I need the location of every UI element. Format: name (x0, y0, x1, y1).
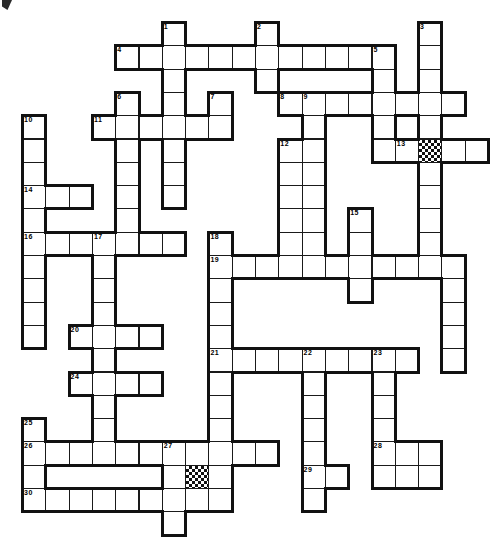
crossword-cell[interactable] (418, 255, 442, 279)
crossword-cell[interactable] (348, 255, 372, 279)
crossword-cell[interactable] (208, 488, 232, 512)
crossword-cell[interactable] (69, 372, 93, 396)
crossword-cell[interactable] (162, 441, 186, 465)
crossword-cell[interactable] (372, 115, 396, 139)
crossword-cell[interactable] (418, 162, 442, 186)
crossword-cell[interactable] (232, 255, 256, 279)
crossword-cell[interactable] (372, 441, 396, 465)
shaded-cell[interactable] (418, 139, 442, 163)
crossword-cell[interactable] (372, 372, 396, 396)
crossword-cell[interactable] (255, 22, 279, 46)
crossword-cell[interactable] (185, 45, 209, 69)
crossword-cell[interactable] (208, 92, 232, 116)
crossword-cell[interactable] (139, 488, 163, 512)
crossword-cell[interactable] (441, 92, 465, 116)
crossword-cell[interactable] (441, 325, 465, 349)
crossword-cell[interactable] (302, 418, 326, 442)
crossword-cell[interactable] (418, 69, 442, 93)
crossword-cell[interactable] (115, 92, 139, 116)
crossword-cell[interactable] (92, 441, 116, 465)
crossword-cell[interactable] (22, 302, 46, 326)
crossword-cell[interactable] (302, 185, 326, 209)
crossword-cell[interactable] (115, 45, 139, 69)
crossword-cell[interactable] (325, 465, 349, 489)
crossword-cell[interactable] (115, 162, 139, 186)
crossword-cell[interactable] (22, 232, 46, 256)
crossword-cell[interactable] (395, 139, 419, 163)
crossword-cell[interactable] (302, 348, 326, 372)
crossword-cell[interactable] (302, 372, 326, 396)
crossword-cell[interactable] (92, 302, 116, 326)
crossword-cell[interactable] (162, 92, 186, 116)
crossword-cell[interactable] (418, 185, 442, 209)
crossword-cell[interactable] (139, 372, 163, 396)
crossword-cell[interactable] (372, 255, 396, 279)
crossword-cell[interactable] (208, 45, 232, 69)
crossword-cell[interactable] (208, 372, 232, 396)
crossword-cell[interactable] (418, 441, 442, 465)
crossword-cell[interactable] (441, 139, 465, 163)
crossword-cell[interactable] (185, 115, 209, 139)
crossword-cell[interactable] (69, 232, 93, 256)
crossword-cell[interactable] (372, 45, 396, 69)
crossword-cell[interactable] (22, 441, 46, 465)
crossword-cell[interactable] (22, 418, 46, 442)
crossword-cell[interactable] (92, 372, 116, 396)
crossword-cell[interactable] (325, 255, 349, 279)
crossword-cell[interactable] (115, 488, 139, 512)
crossword-cell[interactable] (302, 139, 326, 163)
crossword-cell[interactable] (255, 348, 279, 372)
crossword-cell[interactable] (139, 45, 163, 69)
crossword-cell[interactable] (115, 325, 139, 349)
crossword-cell[interactable] (325, 45, 349, 69)
crossword-cell[interactable] (92, 278, 116, 302)
crossword-cell[interactable] (348, 45, 372, 69)
crossword-cell[interactable] (162, 115, 186, 139)
crossword-cell[interactable] (302, 465, 326, 489)
crossword-cell[interactable] (69, 325, 93, 349)
crossword-cell[interactable] (302, 488, 326, 512)
crossword-cell[interactable] (278, 232, 302, 256)
crossword-cell[interactable] (255, 45, 279, 69)
crossword-cell[interactable] (278, 45, 302, 69)
crossword-cell[interactable] (208, 348, 232, 372)
crossword-cell[interactable] (162, 488, 186, 512)
crossword-cell[interactable] (302, 92, 326, 116)
crossword-cell[interactable] (69, 185, 93, 209)
crossword-cell[interactable] (418, 115, 442, 139)
crossword-cell[interactable] (22, 255, 46, 279)
crossword-cell[interactable] (348, 348, 372, 372)
crossword-cell[interactable] (208, 278, 232, 302)
crossword-cell[interactable] (92, 115, 116, 139)
crossword-cell[interactable] (418, 465, 442, 489)
crossword-cell[interactable] (115, 115, 139, 139)
crossword-cell[interactable] (302, 162, 326, 186)
crossword-cell[interactable] (255, 69, 279, 93)
crossword-cell[interactable] (278, 139, 302, 163)
crossword-cell[interactable] (208, 465, 232, 489)
crossword-cell[interactable] (302, 115, 326, 139)
crossword-cell[interactable] (22, 162, 46, 186)
crossword-cell[interactable] (208, 441, 232, 465)
crossword-cell[interactable] (139, 325, 163, 349)
crossword-cell[interactable] (325, 92, 349, 116)
crossword-cell[interactable] (395, 465, 419, 489)
crossword-cell[interactable] (372, 395, 396, 419)
crossword-cell[interactable] (22, 139, 46, 163)
crossword-cell[interactable] (348, 92, 372, 116)
crossword-cell[interactable] (372, 69, 396, 93)
crossword-cell[interactable] (372, 92, 396, 116)
crossword-cell[interactable] (185, 488, 209, 512)
crossword-cell[interactable] (278, 185, 302, 209)
crossword-cell[interactable] (22, 465, 46, 489)
crossword-cell[interactable] (162, 139, 186, 163)
crossword-cell[interactable] (395, 92, 419, 116)
crossword-cell[interactable] (92, 232, 116, 256)
crossword-cell[interactable] (208, 302, 232, 326)
crossword-cell[interactable] (139, 232, 163, 256)
crossword-cell[interactable] (92, 418, 116, 442)
crossword-cell[interactable] (115, 208, 139, 232)
crossword-cell[interactable] (22, 115, 46, 139)
crossword-cell[interactable] (232, 45, 256, 69)
crossword-cell[interactable] (208, 232, 232, 256)
